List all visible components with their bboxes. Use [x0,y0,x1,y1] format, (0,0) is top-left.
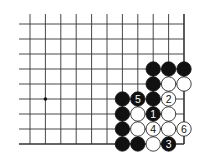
white-stone [131,122,145,136]
go-board: 521463 [0,0,207,160]
black-stone [115,122,129,136]
move-number: 4 [150,123,156,135]
black-stone [131,137,145,151]
white-stone [177,77,191,91]
move-number: 1 [150,108,156,120]
move-number: 3 [166,138,172,150]
white-stone [161,122,175,136]
white-stone [161,77,175,91]
star-point [44,97,48,101]
move-number: 6 [181,123,187,135]
black-stone [146,77,160,91]
black-stone [146,62,160,76]
black-stone [115,107,129,121]
move-number: 5 [135,93,141,105]
black-stone [115,92,129,106]
white-stone [131,107,145,121]
black-stone [146,92,160,106]
move-number: 2 [166,93,172,105]
black-stone [115,137,129,151]
black-stone [177,62,191,76]
white-stone [161,107,175,121]
black-stone [161,62,175,76]
white-stone [146,137,160,151]
